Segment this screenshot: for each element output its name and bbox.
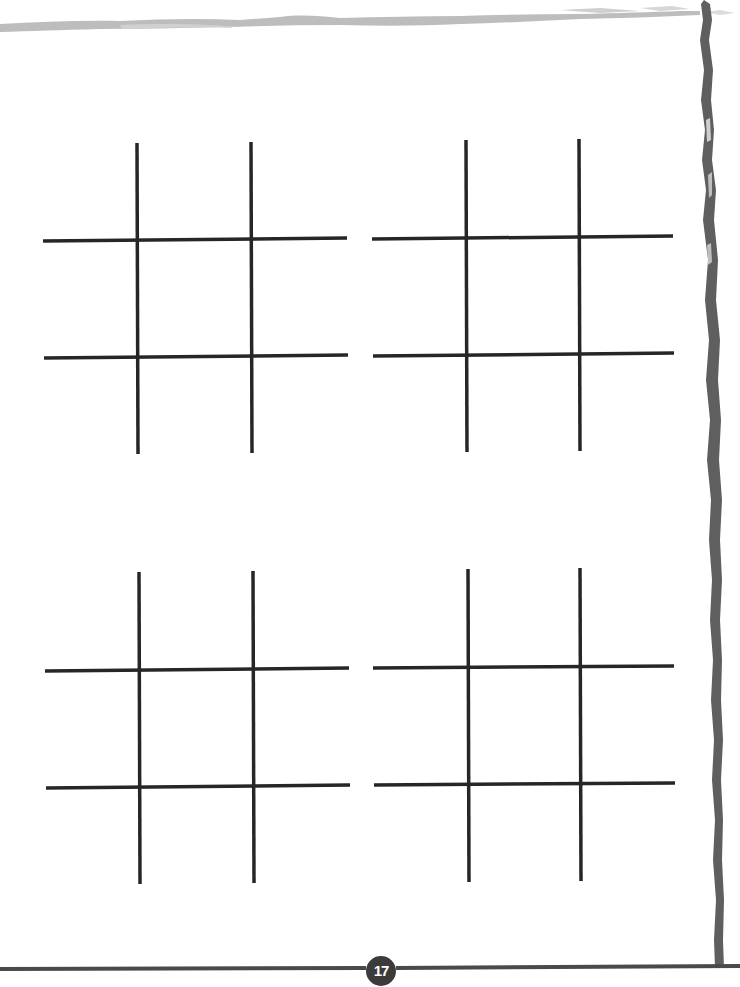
worksheet-page: 17 bbox=[0, 0, 740, 987]
grid-horizontal-line bbox=[46, 785, 350, 788]
tic-tac-toe-grid-bottom-left[interactable] bbox=[45, 571, 350, 884]
grid-vertical-line bbox=[468, 569, 469, 882]
grid-horizontal-line bbox=[45, 668, 349, 671]
grid-vertical-line bbox=[580, 568, 581, 881]
grid-horizontal-line bbox=[43, 238, 347, 241]
grid-horizontal-line bbox=[373, 666, 674, 668]
tic-tac-toe-grid-top-right[interactable] bbox=[372, 139, 674, 452]
grid-vertical-line bbox=[579, 139, 580, 451]
page-number-badge: 17 bbox=[366, 956, 396, 986]
grid-vertical-line bbox=[251, 142, 252, 453]
tic-tac-toe-grid-bottom-right[interactable] bbox=[373, 568, 675, 882]
tic-tac-toe-grids bbox=[0, 0, 740, 987]
grid-horizontal-line bbox=[372, 236, 673, 239]
grid-horizontal-line bbox=[374, 783, 675, 785]
grid-vertical-line bbox=[137, 143, 138, 454]
tic-tac-toe-grid-top-left[interactable] bbox=[43, 142, 348, 454]
grid-vertical-line bbox=[253, 571, 254, 883]
grid-vertical-line bbox=[466, 140, 467, 452]
grid-horizontal-line bbox=[373, 353, 674, 356]
grid-horizontal-line bbox=[44, 355, 348, 358]
grid-vertical-line bbox=[139, 572, 140, 884]
